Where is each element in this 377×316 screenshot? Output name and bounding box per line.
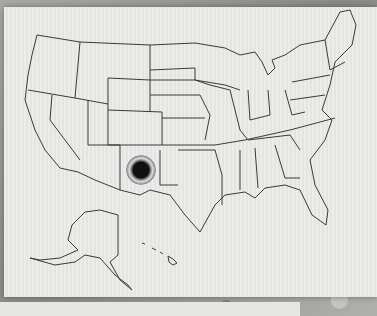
location-marker <box>126 155 156 185</box>
us-outline-map <box>0 0 377 316</box>
